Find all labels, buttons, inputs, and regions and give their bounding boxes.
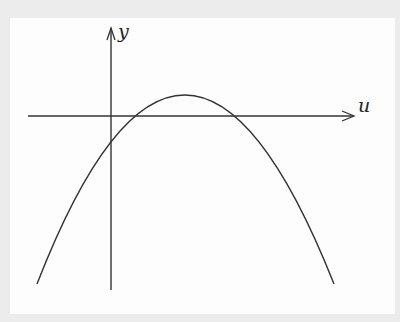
parabola-diagram: u y — [0, 0, 400, 322]
parabola-curve — [37, 95, 334, 284]
y-axis-label: y — [117, 20, 129, 42]
u-axis-label: u — [358, 94, 370, 116]
